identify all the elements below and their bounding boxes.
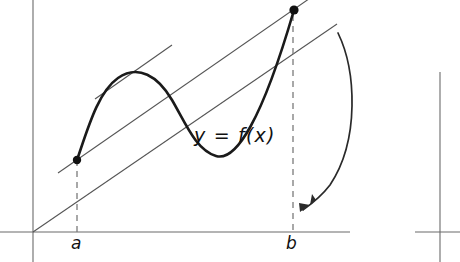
tick-label-a: a: [71, 235, 81, 252]
figure-canvas: a b y = f(x): [0, 0, 460, 262]
point-b-marker: [289, 5, 298, 14]
parallel-line-through-origin: [33, 24, 337, 232]
function-label: y = f(x): [194, 126, 276, 145]
secant-line: [58, 0, 316, 173]
point-a-marker: [73, 156, 81, 164]
tick-label-b: b: [286, 235, 297, 252]
pointer-arrow-curve: [303, 33, 352, 210]
